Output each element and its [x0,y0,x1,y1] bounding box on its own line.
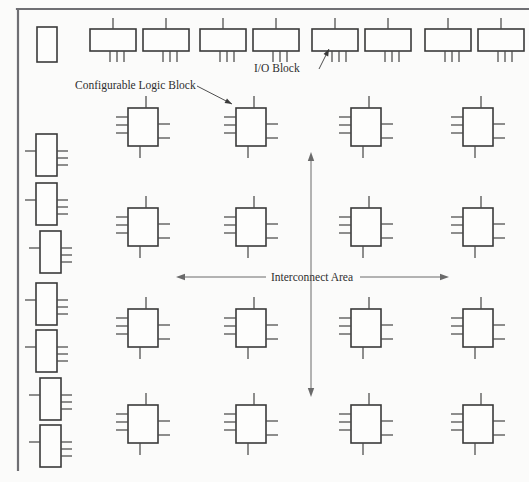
interconnect-vertical-arrowhead-top [308,152,314,161]
io-block-left-4 [25,283,68,325]
io-block-top-6-body [365,29,411,51]
clb-r1-c4 [451,96,505,158]
clb-r3-c2 [224,297,278,359]
io-block-top-8 [478,18,524,62]
iob-callout: I/O Block [254,49,329,74]
io-block-top-5 [312,18,358,62]
clb-r4-c3-body [351,405,381,443]
clb-r4-c4 [451,393,505,455]
io-block-top-1-body [90,29,136,51]
corner-block [37,27,57,62]
callout-group: Configurable Logic BlockI/O Block [75,49,329,104]
clb-r3-c3 [339,297,393,359]
clb-r1-c2-body [236,108,266,146]
clb-r2-c4-body [463,208,493,246]
io-block-top-7 [425,18,471,62]
io-block-left-4-body [36,283,57,325]
clb-r1-c3-body [351,108,381,146]
io-block-top-2 [143,18,189,62]
io-block-left-5 [25,330,68,372]
corner-block-body [37,27,57,62]
clb-callout: Configurable Logic Block [75,79,232,104]
interconnect-vertical-arrowhead-bottom [308,388,314,397]
clb-r3-c4 [451,297,505,359]
clb-r3-c4-body [463,309,493,347]
interconnect-horizontal: Interconnect Area [176,271,449,283]
iob-callout-text: I/O Block [254,62,300,74]
fpga-architecture-diagram: Interconnect Area Configurable Logic Blo… [0,0,529,482]
clb-r2-c3 [339,196,393,258]
io-block-top-2-body [143,29,189,51]
clb-r3-c2-body [236,309,266,347]
clb-r4-c2-body [236,405,266,443]
io-block-top-4-body [253,29,299,51]
clb-r1-c4-body [463,108,493,146]
io-block-left-6 [29,378,72,420]
interconnect-horizontal-arrowhead-left [176,274,185,280]
clb-r4-c2 [224,393,278,455]
io-block-left-3 [29,231,72,273]
clb-r3-c1-body [128,309,158,347]
io-block-top-7-body [425,29,471,51]
io-block-left-5-body [36,330,57,372]
clb-r2-c2-body [236,208,266,246]
clb-r2-c2 [224,196,278,258]
io-block-top-4 [253,18,299,62]
clb-r4-c1 [116,393,170,455]
io-block-left-1-body [36,134,57,176]
clb-callout-text: Configurable Logic Block [75,79,196,92]
clb-r1-c1 [116,96,170,158]
clb-r1-c2 [224,96,278,158]
clb-r3-c3-body [351,309,381,347]
dimension-arrow-group: Interconnect Area [176,152,449,397]
clb-r1-c1-body [128,108,158,146]
clb-r1-c3 [339,96,393,158]
io-block-left-2-body [36,183,57,225]
io-block-left-7-body [40,425,61,467]
io-block-top-3 [200,18,246,62]
io-block-left-3-body [40,231,61,273]
clb-r2-c1-body [128,208,158,246]
io-block-top-6 [365,18,411,62]
io-block-left-2 [25,183,68,225]
io-block-top-8-body [478,29,524,51]
io-block-left-1 [25,134,68,176]
io-block-top-5-body [312,29,358,51]
interconnect-area-label: Interconnect Area [271,271,353,283]
clb-r2-c4 [451,196,505,258]
diagram-canvas: Interconnect Area Configurable Logic Blo… [0,0,529,482]
interconnect-horizontal-arrowhead-right [440,274,449,280]
clb-callout-arrowhead [225,98,232,104]
clb-r2-c3-body [351,208,381,246]
clb-r4-c3 [339,393,393,455]
io-block-left-7 [29,425,72,467]
clb-r4-c4-body [463,405,493,443]
clb-r2-c1 [116,196,170,258]
io-block-top-3-body [200,29,246,51]
clb-r3-c1 [116,297,170,359]
io-block-left-6-body [40,378,61,420]
clb-r4-c1-body [128,405,158,443]
io-block-top-1 [90,18,136,62]
